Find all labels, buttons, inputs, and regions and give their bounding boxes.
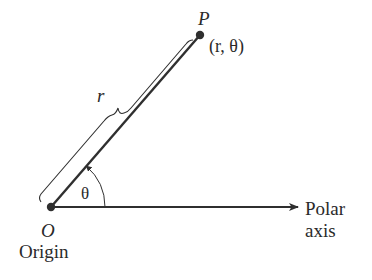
- point-p-dot: [196, 31, 204, 39]
- radius-brace: [40, 40, 194, 202]
- origin-word-label: Origin: [19, 242, 69, 261]
- radius-segment: [51, 35, 200, 207]
- angle-arc: [86, 166, 105, 207]
- radius-label: r: [97, 86, 104, 105]
- point-coords-text: (r, θ): [209, 36, 244, 56]
- point-coords-label: (r, θ): [209, 37, 244, 55]
- polar-diagram: P (r, θ) r θ O Origin Polar axis: [0, 0, 372, 280]
- origin-dot: [47, 203, 55, 211]
- origin-letter-label: O: [41, 221, 55, 240]
- angle-label: θ: [81, 185, 89, 202]
- point-p-label: P: [198, 9, 210, 28]
- polar-axis-label-line2: axis: [305, 221, 336, 240]
- polar-axis-label-line1: Polar: [305, 199, 345, 218]
